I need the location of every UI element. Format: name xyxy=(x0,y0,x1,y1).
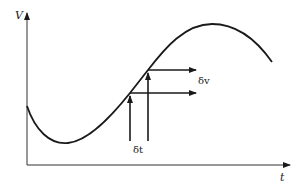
diagram-svg xyxy=(0,0,301,188)
delta-t-label: δt xyxy=(133,145,143,155)
diagram-canvas: V t δv δt xyxy=(0,0,301,188)
y-axis-label: V xyxy=(15,10,23,21)
voltage-curve xyxy=(27,24,272,143)
delta-v-label: δv xyxy=(198,76,210,86)
x-axis-label: t xyxy=(280,172,284,183)
